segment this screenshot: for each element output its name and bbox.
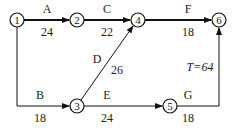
svg-text:1: 1 (14, 14, 20, 26)
edge-A-duration: 24 (41, 25, 53, 39)
edge-A-name: A (43, 2, 52, 16)
edge-D-name: D (93, 52, 102, 66)
edge-F-name: F (185, 2, 192, 16)
node-4: 4 (131, 13, 145, 27)
node-1: 1 (10, 13, 24, 27)
node-3: 3 (70, 99, 84, 113)
svg-text:4: 4 (135, 14, 141, 26)
network-diagram: 1 2 4 6 3 5 A 24 C 22 F 18 B 18 D 26 E 2… (0, 0, 248, 128)
edge-E-duration: 24 (101, 111, 113, 125)
edge-F-duration: 18 (182, 25, 194, 39)
svg-text:6: 6 (216, 14, 222, 26)
edge-D-duration: 26 (111, 63, 123, 77)
node-2: 2 (70, 13, 84, 27)
total-time-label: T=64 (187, 60, 214, 74)
svg-text:2: 2 (74, 14, 80, 26)
edge-B-name: B (36, 88, 44, 102)
edge-G-name: G (184, 88, 193, 102)
node-6: 6 (212, 13, 226, 27)
edge-E-name: E (103, 88, 110, 102)
edge-C-duration: 22 (101, 25, 113, 39)
svg-text:5: 5 (167, 100, 173, 112)
svg-text:3: 3 (74, 100, 80, 112)
edge-B-duration: 18 (34, 111, 46, 125)
edge-C-name: C (103, 2, 111, 16)
edge-G-duration: 18 (182, 111, 194, 125)
node-5: 5 (163, 99, 177, 113)
